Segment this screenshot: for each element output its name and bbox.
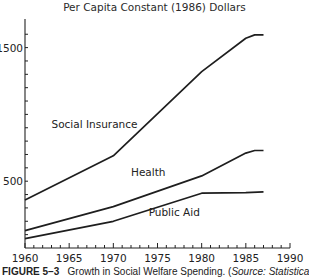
figure-label: FIGURE 5–3 [2, 266, 59, 277]
caption-text: Growth in Social Welfare Spending. ( [68, 266, 232, 277]
x-tick-label: 1985 [232, 252, 259, 264]
x-tick-label: 1965 [56, 252, 83, 264]
x-tick-label: 1960 [12, 252, 39, 264]
x-tick-label: 1970 [100, 252, 127, 264]
series-label: Health [131, 166, 165, 178]
caption-source: Source: Statistical [231, 266, 309, 277]
x-tick-label: 1980 [188, 252, 215, 264]
x-tick-label: 1975 [144, 252, 171, 264]
x-tick-label: 1990 [277, 252, 304, 264]
series-line-public-aid [25, 192, 264, 239]
y-tick-label: 1500 [0, 42, 23, 54]
line-chart: 50015001960196519701975198019851990Socia… [0, 0, 309, 266]
series-label: Social Insurance [52, 118, 138, 130]
figure-caption: FIGURE 5–3 Growth in Social Welfare Spen… [2, 266, 309, 277]
series-label: Public Aid [149, 206, 200, 218]
y-tick-label: 500 [3, 175, 23, 187]
series-line-health [25, 151, 264, 231]
